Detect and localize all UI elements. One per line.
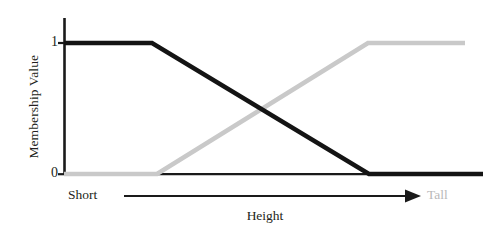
axis-anchor-label-tall: Tall: [427, 188, 448, 202]
x-axis-title: Height: [205, 209, 325, 223]
axis-anchor-label-short: Short: [68, 188, 97, 202]
y-tick-label-0: 0: [44, 166, 58, 180]
y-tick-label-1: 1: [44, 35, 58, 49]
series-line-short: [64, 43, 483, 174]
axis-direction-arrow-head: [405, 190, 421, 203]
y-axis-title: Membership Value: [27, 37, 41, 177]
chart-figure: Tall --> Membership Value 1 0 Short Tall…: [0, 0, 497, 236]
